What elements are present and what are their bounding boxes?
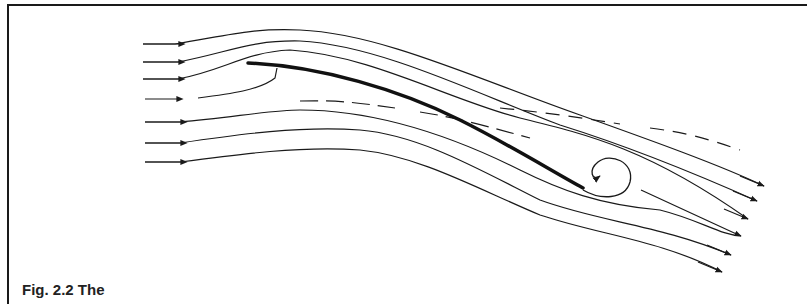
streamlines: [143, 30, 764, 272]
streamline-2: [143, 41, 757, 201]
streamline-1: [143, 30, 764, 186]
streamline-7: [145, 149, 722, 272]
figure-caption: Fig. 2.2 The: [22, 281, 105, 298]
streamline-6: [145, 129, 731, 255]
trailing-edge-vortex: [583, 158, 631, 197]
